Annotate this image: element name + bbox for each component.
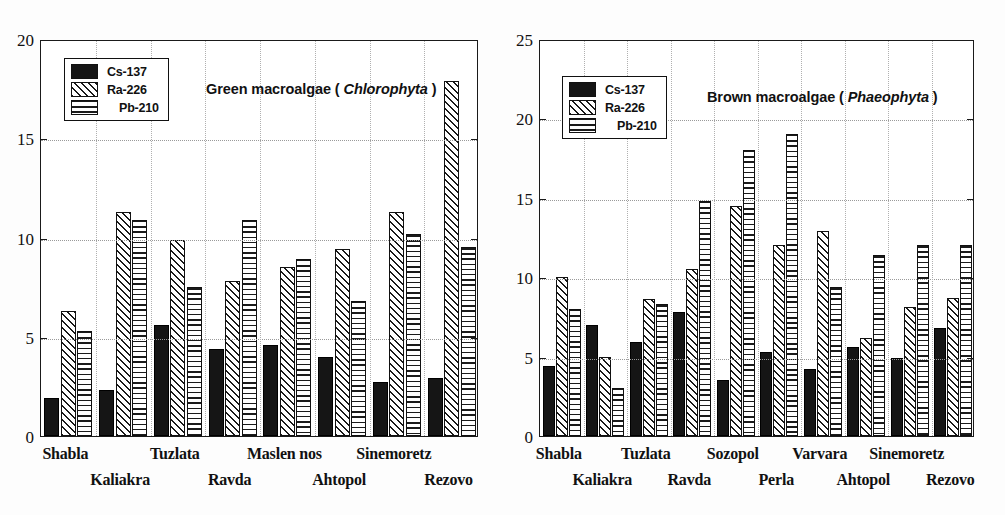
x-axis-label-sinemoretz: Sinemoretz	[356, 445, 431, 463]
x-axis-label-shabla: Shabla	[42, 445, 88, 463]
x-axis-label-ravda: Ravda	[668, 471, 711, 489]
bar-ra-226-shabla	[556, 277, 568, 436]
y-gridline	[540, 200, 973, 201]
bar-cs-137-maslen-nos	[263, 345, 278, 436]
legend-label-pb210: Pb-210	[605, 119, 657, 133]
y-gridline	[540, 359, 973, 360]
bar-cs-137-shabla	[44, 398, 59, 436]
legend-label-cs137: Cs-137	[605, 83, 645, 97]
legend-entry-ra226: Ra-226	[71, 82, 159, 97]
y-tick-mark	[540, 119, 546, 120]
legend-label-ra226: Ra-226	[107, 83, 147, 97]
y-tick-label: 10	[516, 269, 533, 289]
bar-cs-137-sinemoretz	[891, 358, 903, 436]
legend-swatch-cs137-icon	[71, 64, 98, 79]
y-tick-label: 15	[516, 189, 533, 209]
bar-pb-210-ahtopol	[873, 255, 885, 436]
bar-cs-137-tuzlata	[630, 342, 642, 436]
y-tick-mark	[540, 358, 546, 359]
x-gridline	[424, 41, 425, 436]
y-tick-label: 20	[17, 31, 34, 51]
bar-cs-137-shabla	[543, 366, 555, 436]
bar-cs-137-ravda	[673, 312, 685, 436]
legend-right: Cs-137 Ra-226 Pb-210	[562, 76, 667, 139]
y-tick-label: 5	[26, 328, 35, 348]
y-tick-label: 10	[17, 229, 34, 249]
y-tick-mark	[540, 278, 546, 279]
bar-cs-137-ahtopol	[847, 347, 859, 436]
bar-pb-210-rezovo	[461, 247, 476, 436]
bar-pb-210-sinemoretz	[917, 245, 929, 436]
bar-ra-226-kaliakra	[599, 357, 611, 436]
legend-swatch-pb210-icon	[569, 118, 596, 133]
legend-swatch-ra226-icon	[71, 82, 98, 97]
x-gridline	[671, 41, 672, 436]
x-axis-label-shabla: Shabla	[536, 445, 582, 463]
bar-ra-226-tuzlata	[643, 299, 655, 436]
legend-left: Cs-137 Ra-226 Pb-210	[64, 58, 169, 121]
bar-ra-226-shabla	[61, 311, 76, 436]
bar-pb-210-kaliakra	[612, 388, 624, 436]
legend-entry-pb210: Pb-210	[71, 100, 159, 115]
x-axis-label-rezovo: Rezovo	[926, 471, 975, 489]
x-axis-label-sinemoretz: Sinemoretz	[869, 445, 944, 463]
y-gridline	[540, 279, 973, 280]
bar-cs-137-ravda	[209, 349, 224, 436]
bar-cs-137-perla	[760, 352, 772, 436]
y-tick-label: 5	[525, 348, 534, 368]
bar-pb-210-tuzlata	[656, 304, 668, 436]
x-axis-label-ahtopol: Ahtopol	[312, 471, 366, 489]
bar-ra-226-maslen-nos	[280, 267, 295, 436]
bar-pb-210-rezovo	[960, 245, 972, 436]
y-tick-mark	[967, 119, 973, 120]
bar-ra-226-kaliakra	[116, 212, 131, 436]
y-tick-mark	[41, 239, 47, 240]
y-tick-label: 15	[17, 130, 34, 150]
x-gridline	[315, 41, 316, 436]
y-tick-label: 20	[516, 110, 533, 130]
figure-root: Cs-137 Ra-226 Pb-210 Green macroalgae ( …	[0, 0, 1005, 515]
x-axis-label-rezovo: Rezovo	[424, 471, 473, 489]
x-axis-label-perla: Perla	[759, 471, 794, 489]
chart-title-species: Phaeophyta	[848, 89, 929, 105]
bar-cs-137-tuzlata	[154, 325, 169, 436]
y-tick-mark	[540, 199, 546, 200]
x-gridline	[260, 41, 261, 436]
legend-entry-pb210: Pb-210	[569, 118, 657, 133]
bar-ra-226-tuzlata	[170, 240, 185, 437]
y-tick-mark	[41, 139, 47, 140]
bar-cs-137-varvara	[804, 369, 816, 436]
x-axis-label-maslen-nos: Maslen nos	[247, 445, 322, 463]
bar-ra-226-sinemoretz	[904, 307, 916, 436]
bar-cs-137-sozopol	[717, 380, 729, 436]
y-tick-label: 25	[516, 31, 533, 51]
bar-pb-210-varvara	[830, 287, 842, 436]
x-axis-label-tuzlata: Tuzlata	[621, 445, 671, 463]
x-gridline	[370, 41, 371, 436]
legend-swatch-pb210-icon	[71, 100, 98, 115]
bar-ra-226-ravda	[225, 281, 240, 436]
y-tick-mark	[471, 239, 477, 240]
bar-cs-137-rezovo	[428, 378, 443, 436]
bar-pb-210-sinemoretz	[406, 234, 421, 436]
bar-pb-210-sozopol	[743, 150, 755, 436]
y-gridline	[41, 240, 477, 241]
bar-pb-210-ravda	[699, 201, 711, 436]
bar-pb-210-ahtopol	[351, 301, 366, 436]
bar-ra-226-ravda	[686, 269, 698, 436]
bar-ra-226-ahtopol	[335, 249, 350, 436]
x-axis-label-kaliakra: Kaliakra	[90, 471, 150, 489]
plot-area-left: Cs-137 Ra-226 Pb-210 Green macroalgae ( …	[40, 40, 478, 437]
chart-panel-green-macroalgae: Cs-137 Ra-226 Pb-210 Green macroalgae ( …	[0, 0, 500, 515]
bar-ra-226-perla	[773, 245, 785, 436]
bar-ra-226-sinemoretz	[389, 212, 404, 436]
y-gridline	[41, 140, 477, 141]
bar-ra-226-ahtopol	[860, 338, 872, 436]
bar-pb-210-kaliakra	[132, 220, 147, 436]
x-axis-label-sozopol: Sozopol	[707, 445, 759, 463]
legend-swatch-ra226-icon	[569, 100, 596, 115]
chart-title-right: Brown macroalgae ( Phaeophyta )	[707, 89, 938, 105]
bar-cs-137-ahtopol	[318, 357, 333, 436]
bar-ra-226-sozopol	[730, 206, 742, 436]
y-tick-mark	[967, 199, 973, 200]
